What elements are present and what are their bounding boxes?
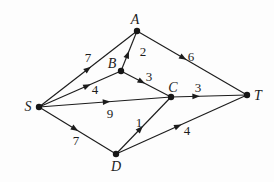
edge-weight-A-T: 6 — [188, 49, 195, 64]
graph-diagram: 7497263314SABCDT — [0, 0, 274, 182]
node-label-T: T — [254, 88, 263, 103]
edge-weight-S-A: 7 — [85, 50, 92, 65]
arrowhead-icon — [124, 50, 132, 59]
edge-weight-B-A: 2 — [140, 44, 147, 59]
edge-weight-S-D: 7 — [73, 133, 80, 148]
node-A — [134, 28, 140, 34]
graph-figure: 7497263314SABCDT — [0, 0, 274, 182]
arrowhead-icon — [179, 54, 188, 63]
edge-C-T — [171, 95, 247, 97]
edge-weight-C-T: 3 — [195, 80, 202, 95]
edge-D-C — [116, 97, 171, 154]
node-T — [244, 92, 250, 98]
node-label-A: A — [130, 12, 140, 27]
node-B — [118, 68, 124, 74]
edge-weight-D-C: 1 — [136, 115, 143, 130]
node-label-B: B — [108, 56, 117, 71]
edge-weight-B-C: 3 — [146, 69, 153, 84]
arrowhead-icon — [103, 99, 111, 105]
edge-weight-S-C: 9 — [107, 106, 114, 121]
arrowhead-icon — [83, 82, 92, 90]
node-D — [113, 151, 119, 157]
node-label-D: D — [110, 159, 121, 174]
node-label-S: S — [25, 99, 32, 114]
node-S — [36, 104, 42, 110]
edge-weight-D-T: 4 — [184, 123, 191, 138]
node-label-C: C — [168, 80, 178, 95]
edge-weight-S-B: 4 — [92, 82, 99, 97]
arrowhead-icon — [173, 122, 182, 130]
